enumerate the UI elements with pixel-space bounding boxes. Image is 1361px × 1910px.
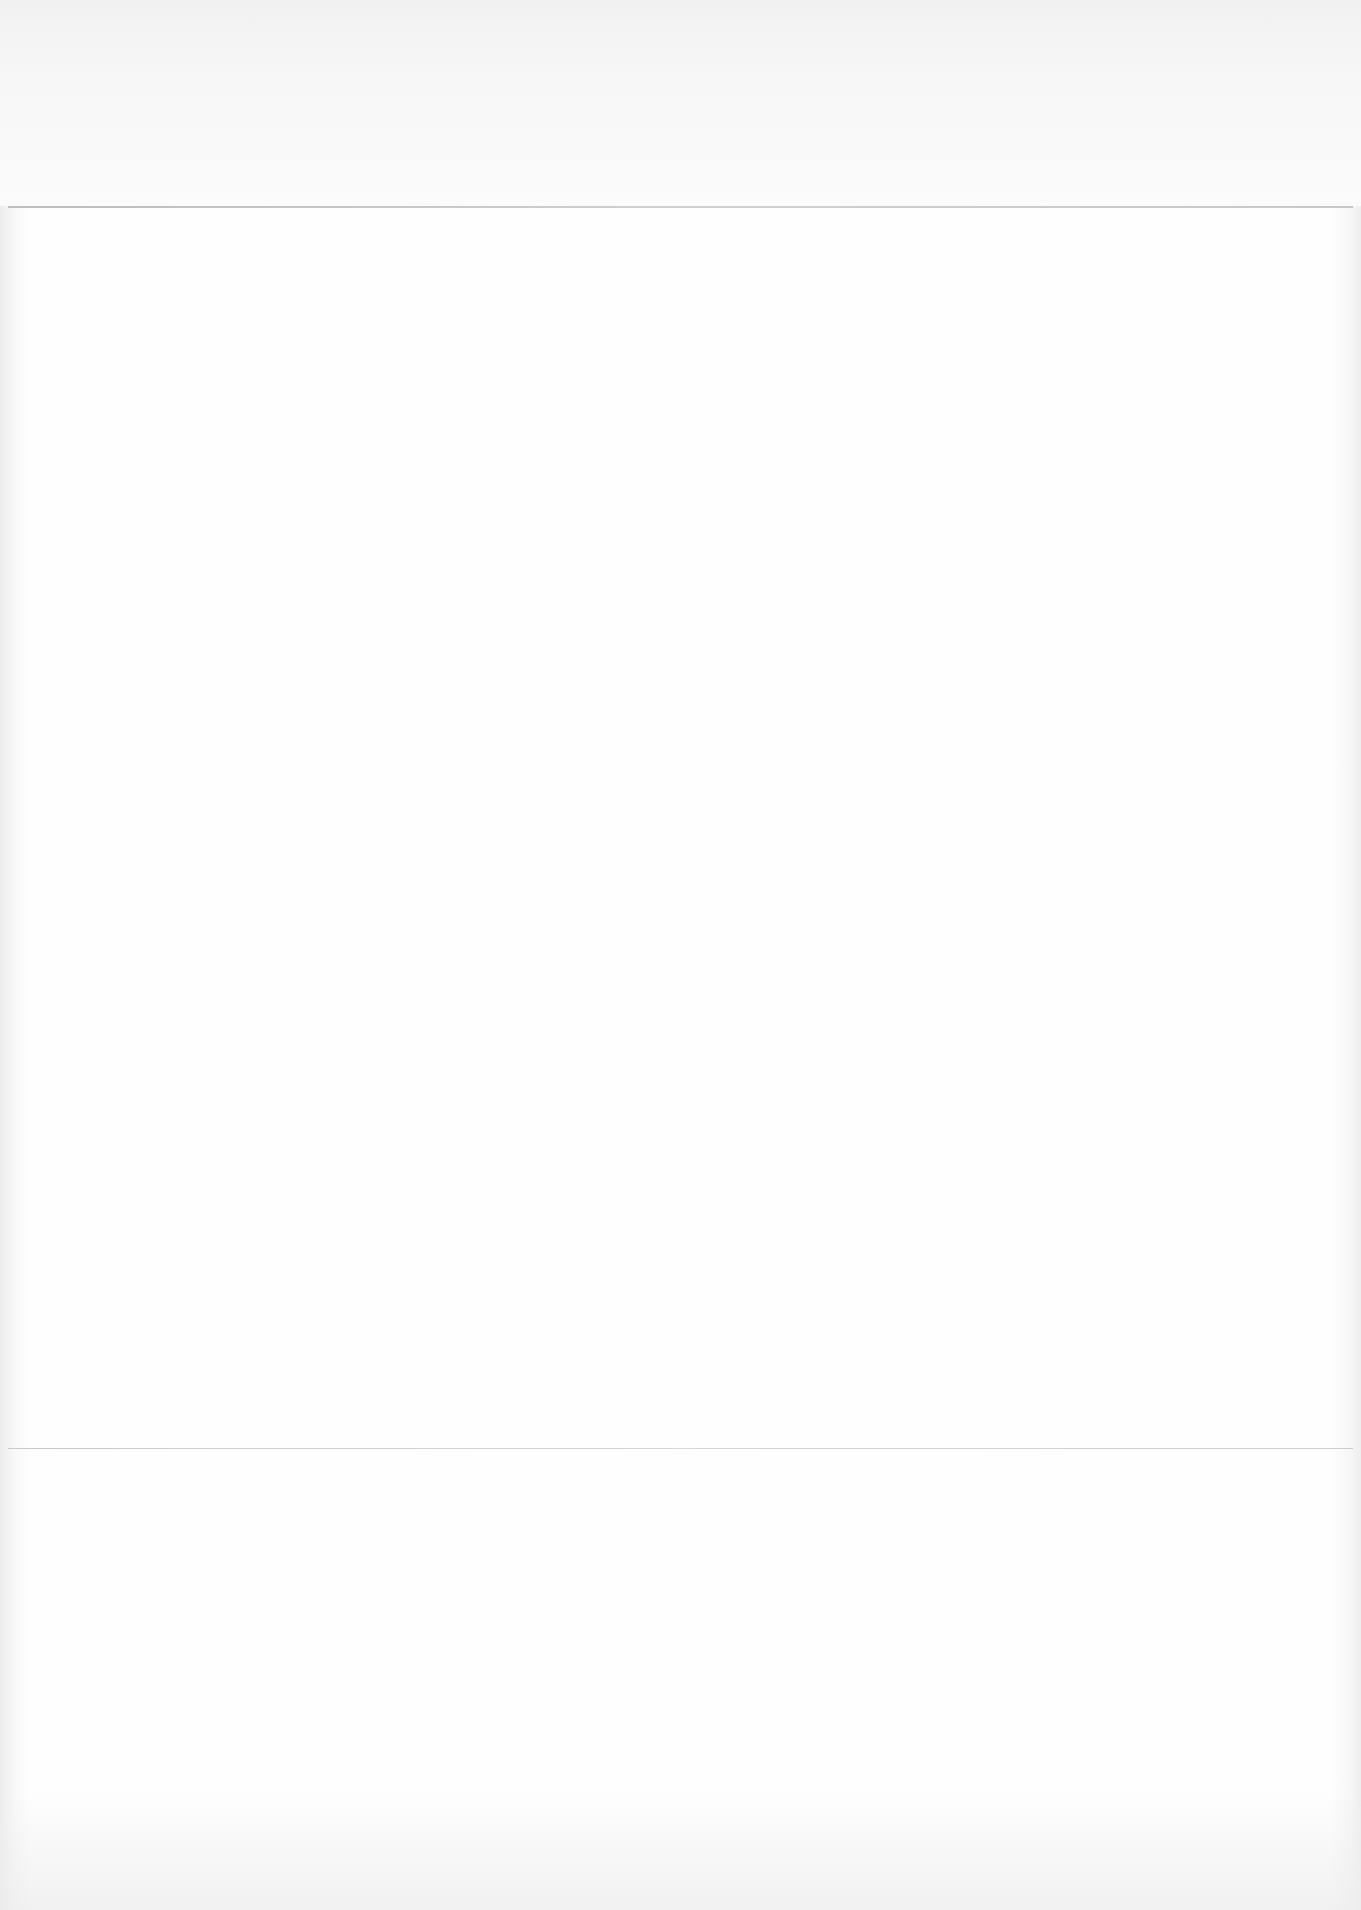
scanned-page bbox=[0, 0, 1361, 1910]
bottom-horizontal-rule bbox=[8, 1448, 1353, 1449]
top-horizontal-rule bbox=[8, 206, 1353, 208]
header-band bbox=[0, 0, 1361, 206]
page-bottom-shading bbox=[0, 1790, 1361, 1910]
